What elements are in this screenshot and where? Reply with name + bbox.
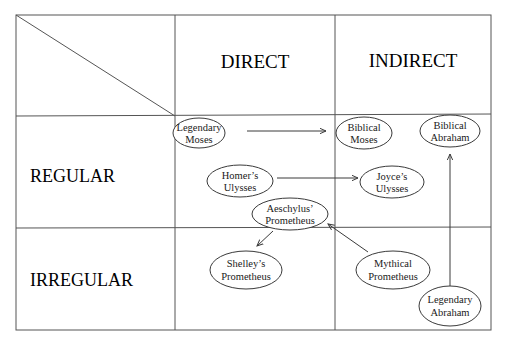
node-legendary-abraham: Legendary Abraham [419,286,481,326]
svg-text:Mythical: Mythical [374,258,412,269]
node-joyces-ulysses: Joyce’s Ulysses [360,166,424,198]
edge-aeschylus-to-shelley [257,231,273,246]
svg-text:Ulysses: Ulysses [376,183,409,194]
node-aeschylus-prometheus: Aeschylus’ Prometheus [252,198,328,230]
corner-diagonal [16,15,175,116]
row-divider-1 [16,114,491,116]
svg-text:Abraham: Abraham [430,307,469,318]
node-biblical-abraham: Biblical Abraham [420,115,480,147]
svg-text:Joyce’s: Joyce’s [377,171,408,182]
svg-text:Biblical: Biblical [347,122,380,133]
column-header-indirect: INDIRECT [369,50,458,71]
row-divider-2 [16,227,491,228]
column-header-direct: DIRECT [221,51,290,72]
node-biblical-moses: Biblical Moses [336,117,392,149]
svg-text:Prometheus: Prometheus [221,271,271,282]
svg-text:Aeschylus’: Aeschylus’ [266,203,313,214]
row-header-regular: REGULAR [30,166,115,186]
svg-text:Legendary: Legendary [177,122,223,133]
svg-text:Shelley’s: Shelley’s [227,258,266,269]
node-homers-ulysses: Homer’s Ulysses [207,165,273,197]
svg-text:Prometheus: Prometheus [265,215,315,226]
svg-text:Prometheus: Prometheus [368,271,418,282]
row-header-irregular: IRREGULAR [30,270,133,290]
node-mythical-prometheus: Mythical Prometheus [356,251,430,289]
svg-text:Biblical: Biblical [433,120,466,131]
svg-text:Moses: Moses [185,134,212,145]
svg-text:Moses: Moses [350,134,377,145]
svg-text:Ulysses: Ulysses [224,182,257,193]
node-legendary-moses: Legendary Moses [173,118,225,148]
svg-text:Abraham: Abraham [430,132,469,143]
svg-text:Legendary: Legendary [428,294,474,305]
node-shelleys-prometheus: Shelley’s Prometheus [210,251,282,289]
svg-text:Homer’s: Homer’s [222,170,259,181]
edge-mythical-to-aeschylus [328,224,368,252]
matrix-diagram: DIRECT INDIRECT REGULAR IRREGULAR Legend… [0,0,507,346]
